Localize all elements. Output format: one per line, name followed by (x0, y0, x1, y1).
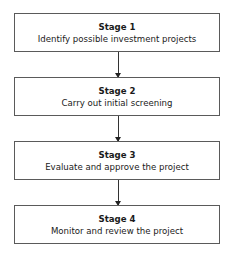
stage-3-title: Stage 3 (98, 149, 135, 161)
stage-2-box: Stage 2 Carry out initial screening (14, 77, 220, 116)
stage-1-title: Stage 1 (98, 21, 135, 33)
stage-4-description: Monitor and review the project (51, 225, 183, 237)
stage-3-box: Stage 3 Evaluate and approve the project (14, 141, 220, 180)
stage-2-title: Stage 2 (98, 85, 135, 97)
stage-4-box: Stage 4 Monitor and review the project (14, 205, 220, 244)
stage-2-description: Carry out initial screening (61, 97, 172, 109)
arrow-down-icon (118, 52, 119, 77)
arrow-down-icon (118, 180, 119, 205)
arrow-down-icon (118, 116, 119, 141)
stage-4-title: Stage 4 (98, 213, 135, 225)
stage-1-description: Identify possible investment projects (38, 33, 197, 45)
stage-1-box: Stage 1 Identify possible investment pro… (14, 13, 220, 52)
stage-3-description: Evaluate and approve the project (45, 161, 189, 173)
